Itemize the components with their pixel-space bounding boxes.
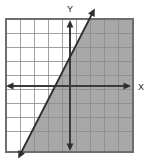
x-axis-label: X	[138, 82, 144, 92]
y-axis-label: Y	[67, 4, 73, 14]
coordinate-plane-graph: Y X	[0, 0, 150, 163]
graph-figure: Y X	[0, 0, 150, 163]
